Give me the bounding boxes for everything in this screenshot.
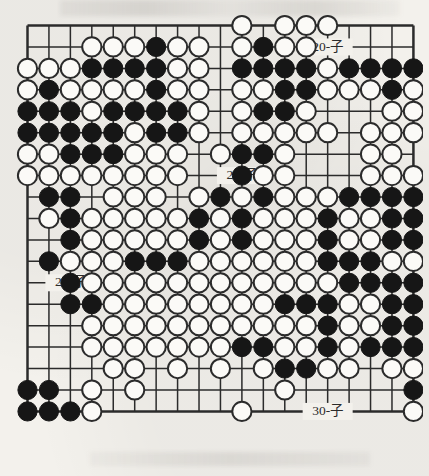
white-stone-disc[interactable] xyxy=(404,252,423,271)
stone-black[interactable] xyxy=(404,380,423,399)
black-stone-disc[interactable] xyxy=(404,316,423,335)
stone-white[interactable] xyxy=(361,295,380,314)
stone-white[interactable] xyxy=(318,59,337,78)
black-stone-disc[interactable] xyxy=(82,59,101,78)
stone-white[interactable] xyxy=(147,316,166,335)
white-stone-disc[interactable] xyxy=(275,252,294,271)
stone-black[interactable] xyxy=(382,209,401,228)
stone-white[interactable] xyxy=(340,230,359,249)
stone-white[interactable] xyxy=(254,209,273,228)
stone-white[interactable] xyxy=(297,37,316,56)
stone-white[interactable] xyxy=(82,338,101,357)
stone-black[interactable] xyxy=(168,102,187,121)
stone-white[interactable] xyxy=(82,37,101,56)
black-stone-disc[interactable] xyxy=(404,380,423,399)
white-stone-disc[interactable] xyxy=(232,80,251,99)
white-stone-disc[interactable] xyxy=(82,338,101,357)
white-stone-disc[interactable] xyxy=(189,80,208,99)
white-stone-disc[interactable] xyxy=(189,273,208,292)
white-stone-disc[interactable] xyxy=(232,295,251,314)
stone-black[interactable] xyxy=(82,59,101,78)
white-stone-disc[interactable] xyxy=(189,252,208,271)
white-stone-disc[interactable] xyxy=(168,273,187,292)
white-stone-disc[interactable] xyxy=(340,359,359,378)
black-stone-disc[interactable] xyxy=(275,295,294,314)
white-stone-disc[interactable] xyxy=(254,273,273,292)
stone-black[interactable] xyxy=(404,59,423,78)
white-stone-disc[interactable] xyxy=(125,80,144,99)
stone-black[interactable] xyxy=(61,402,80,421)
stone-white[interactable] xyxy=(232,187,251,206)
stone-black[interactable] xyxy=(382,80,401,99)
stone-white[interactable] xyxy=(125,123,144,142)
white-stone-disc[interactable] xyxy=(382,102,401,121)
white-stone-disc[interactable] xyxy=(39,145,58,164)
black-stone-disc[interactable] xyxy=(18,402,37,421)
black-stone-disc[interactable] xyxy=(254,37,273,56)
stone-white[interactable] xyxy=(211,145,230,164)
white-stone-disc[interactable] xyxy=(104,295,123,314)
stone-white[interactable] xyxy=(82,102,101,121)
white-stone-disc[interactable] xyxy=(61,59,80,78)
white-stone-disc[interactable] xyxy=(168,316,187,335)
stone-white[interactable] xyxy=(254,123,273,142)
white-stone-disc[interactable] xyxy=(147,295,166,314)
black-stone-disc[interactable] xyxy=(61,187,80,206)
white-stone-disc[interactable] xyxy=(275,145,294,164)
white-stone-disc[interactable] xyxy=(275,380,294,399)
stone-white[interactable] xyxy=(125,37,144,56)
white-stone-disc[interactable] xyxy=(382,166,401,185)
stone-white[interactable] xyxy=(104,359,123,378)
stone-white[interactable] xyxy=(275,145,294,164)
stone-white[interactable] xyxy=(275,187,294,206)
stone-white[interactable] xyxy=(82,316,101,335)
white-stone-disc[interactable] xyxy=(297,230,316,249)
white-stone-disc[interactable] xyxy=(254,295,273,314)
stone-white[interactable] xyxy=(82,402,101,421)
white-stone-disc[interactable] xyxy=(318,123,337,142)
stone-white[interactable] xyxy=(168,166,187,185)
white-stone-disc[interactable] xyxy=(275,316,294,335)
black-stone-disc[interactable] xyxy=(61,209,80,228)
stone-white[interactable] xyxy=(168,338,187,357)
stone-black[interactable] xyxy=(189,209,208,228)
white-stone-disc[interactable] xyxy=(275,123,294,142)
stone-white[interactable] xyxy=(189,187,208,206)
stone-black[interactable] xyxy=(361,273,380,292)
stone-black[interactable] xyxy=(232,209,251,228)
white-stone-disc[interactable] xyxy=(232,123,251,142)
white-stone-disc[interactable] xyxy=(318,80,337,99)
black-stone-disc[interactable] xyxy=(254,187,273,206)
black-stone-disc[interactable] xyxy=(104,145,123,164)
stone-white[interactable] xyxy=(39,209,58,228)
stone-white[interactable] xyxy=(318,16,337,35)
white-stone-disc[interactable] xyxy=(340,209,359,228)
stone-white[interactable] xyxy=(361,123,380,142)
white-stone-disc[interactable] xyxy=(254,209,273,228)
white-stone-disc[interactable] xyxy=(382,359,401,378)
stone-black[interactable] xyxy=(254,145,273,164)
stone-black[interactable] xyxy=(297,295,316,314)
stone-white[interactable] xyxy=(340,316,359,335)
black-stone-disc[interactable] xyxy=(147,123,166,142)
white-stone-disc[interactable] xyxy=(232,102,251,121)
black-stone-disc[interactable] xyxy=(382,316,401,335)
white-stone-disc[interactable] xyxy=(82,380,101,399)
white-stone-disc[interactable] xyxy=(82,402,101,421)
stone-white[interactable] xyxy=(297,338,316,357)
white-stone-disc[interactable] xyxy=(361,295,380,314)
stone-black[interactable] xyxy=(275,102,294,121)
white-stone-disc[interactable] xyxy=(147,316,166,335)
white-stone-disc[interactable] xyxy=(254,123,273,142)
stone-black[interactable] xyxy=(404,230,423,249)
white-stone-disc[interactable] xyxy=(18,59,37,78)
black-stone-disc[interactable] xyxy=(254,338,273,357)
stone-black[interactable] xyxy=(189,230,208,249)
white-stone-disc[interactable] xyxy=(318,59,337,78)
black-stone-disc[interactable] xyxy=(297,359,316,378)
black-stone-disc[interactable] xyxy=(168,123,187,142)
white-stone-disc[interactable] xyxy=(104,316,123,335)
black-stone-disc[interactable] xyxy=(232,209,251,228)
white-stone-disc[interactable] xyxy=(104,359,123,378)
white-stone-disc[interactable] xyxy=(340,338,359,357)
